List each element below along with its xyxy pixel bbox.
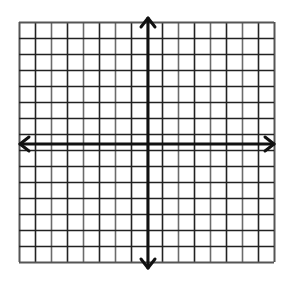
coordinate-plane: [0, 0, 290, 281]
